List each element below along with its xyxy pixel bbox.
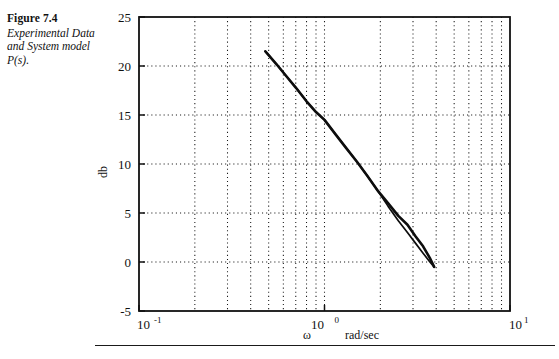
x-tick-label: 10-1 — [137, 315, 162, 332]
bode-magnitude-plot: -50510152025 10-1100101 db ω rad/sec — [0, 0, 559, 359]
x-axis-omega-label: ω — [303, 328, 311, 342]
y-tick-label: 25 — [118, 10, 131, 25]
y-tick-label: 15 — [118, 108, 131, 123]
y-tick-label: 5 — [125, 206, 132, 221]
svg-text:10: 10 — [509, 317, 522, 332]
x-axis-units-label: rad/sec — [345, 328, 379, 342]
y-tick-label: -5 — [120, 304, 131, 319]
y-tick-label: 10 — [118, 157, 131, 172]
x-tick-label: 101 — [509, 315, 529, 332]
figure-plot-area: -50510152025 10-1100101 db ω rad/sec — [0, 0, 559, 359]
svg-text:-1: -1 — [154, 315, 162, 325]
y-tick-label: 0 — [125, 255, 132, 270]
figure-bottom-rule — [95, 345, 555, 346]
x-tick-label: 100 — [311, 315, 340, 332]
svg-text:10: 10 — [311, 317, 324, 332]
svg-text:10: 10 — [137, 317, 150, 332]
x-axis-tick-labels: 10-1100101 — [137, 315, 529, 332]
y-axis-label: db — [96, 166, 110, 178]
y-tick-label: 20 — [118, 59, 131, 74]
y-axis-tick-labels: -50510152025 — [118, 10, 131, 319]
svg-text:0: 0 — [335, 315, 340, 325]
svg-text:1: 1 — [524, 315, 529, 325]
